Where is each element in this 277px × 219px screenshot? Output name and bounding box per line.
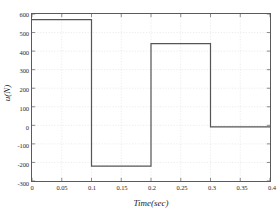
y-tick-label: 300 [20, 67, 29, 74]
y-tick-label: 400 [20, 48, 29, 55]
x-tick-label: 0 [30, 184, 33, 191]
x-tick-label: 0.2 [148, 184, 156, 191]
y-tick-label: -200 [17, 161, 29, 168]
y-tick-label: 200 [20, 86, 29, 93]
y-tick-label: 100 [20, 104, 29, 111]
x-tick-label: 0.25 [177, 184, 188, 191]
x-tick-label: 0.4 [268, 184, 276, 191]
y-tick-label: 0 [26, 123, 29, 130]
y-tick-label: 500 [20, 29, 29, 36]
figure-canvas: -300-200-1000100200300400500600 00.050.1… [0, 0, 277, 219]
y-tick-label: -300 [17, 180, 29, 187]
y-axis-title: u(N) [2, 71, 12, 115]
plot-area: -300-200-1000100200300400500600 00.050.1… [31, 13, 271, 182]
y-tick-label: 600 [20, 11, 29, 18]
x-tick-label: 0.05 [57, 184, 68, 191]
y-tick-label: -100 [17, 142, 29, 149]
x-tick-label: 0.35 [237, 184, 248, 191]
x-tick-label: 0.15 [117, 184, 128, 191]
x-tick-label: 0.3 [208, 184, 216, 191]
series-line [32, 20, 270, 167]
x-tick-label: 0.1 [88, 184, 96, 191]
x-axis-title: Time(sec) [31, 198, 271, 208]
data-series-u [32, 14, 270, 181]
